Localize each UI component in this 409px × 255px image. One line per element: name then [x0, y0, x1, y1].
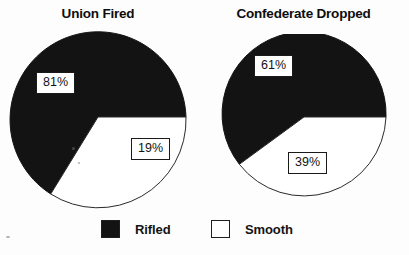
pie-chart-figure: Union Fired Confederate Dropped 81% 19% …	[0, 0, 409, 255]
scan-speck	[78, 162, 80, 164]
pie-label-union-rifled: 81%	[36, 72, 75, 94]
legend-label-rifled: Rifled	[135, 222, 171, 237]
chart-legend: Rifled Smooth	[0, 219, 409, 249]
legend-item-smooth: Smooth	[211, 220, 293, 238]
pie-chart-confederate-dropped	[221, 34, 389, 202]
legend-swatch-smooth-icon	[211, 220, 230, 238]
legend-swatch-rifled-icon	[101, 220, 120, 238]
pie-label-confederate-rifled: 61%	[254, 55, 293, 77]
pie-label-union-smooth: 19%	[131, 138, 170, 160]
legend-label-smooth: Smooth	[245, 222, 293, 237]
legend-item-rifled: Rifled	[101, 220, 171, 238]
chart-title-union-fired: Union Fired	[0, 6, 196, 21]
pie-label-confederate-smooth: 39%	[288, 152, 327, 174]
chart-title-confederate-dropped: Confederate Dropped	[198, 6, 409, 21]
pie-chart-union-fired	[8, 27, 190, 209]
scan-speck	[72, 147, 75, 150]
